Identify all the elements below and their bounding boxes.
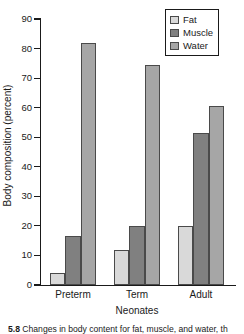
bar-muscle-term	[129, 226, 145, 285]
figure-caption: 5.8 Changes in body content for fat, mus…	[8, 324, 244, 334]
y-axis-tick-label: 10	[4, 250, 32, 260]
bar-muscle-preterm	[65, 236, 81, 285]
y-axis-tick	[34, 137, 40, 138]
y-axis-tick	[34, 225, 40, 226]
y-axis-tick-label: 40	[4, 162, 32, 172]
caption-text: Changes in body content for fat, muscle,…	[20, 324, 228, 334]
legend-swatch-muscle	[170, 29, 179, 37]
bar-fat-term	[114, 250, 130, 285]
bar-water-term	[145, 65, 161, 285]
x-axis-line	[40, 285, 236, 286]
legend-item-water: Water	[170, 39, 213, 52]
legend-label: Fat	[183, 15, 197, 25]
bar-fat-adult	[178, 226, 194, 285]
y-axis-tick-label: 90	[4, 14, 32, 24]
x-axis-label-preterm: Preterm	[41, 289, 105, 300]
bar-muscle-adult	[193, 133, 209, 285]
y-axis-tick	[34, 166, 40, 167]
y-axis-tick-label: 60	[4, 103, 32, 113]
y-axis-tick	[34, 78, 40, 79]
y-axis-tick-labels: 0102030405060708090	[0, 0, 32, 333]
bar-water-preterm	[81, 43, 97, 285]
legend-swatch-fat	[170, 16, 179, 24]
caption-number: 5.8	[8, 324, 20, 334]
y-axis-tick-label: 30	[4, 191, 32, 201]
y-axis-tick	[34, 196, 40, 197]
y-axis-tick	[34, 18, 40, 19]
plot-area	[41, 19, 233, 285]
legend: FatMuscleWater	[165, 9, 219, 56]
y-axis-tick-label: 70	[4, 73, 32, 83]
legend-label: Muscle	[183, 28, 213, 38]
legend-swatch-water	[170, 42, 179, 50]
bar-group	[169, 19, 233, 285]
legend-item-muscle: Muscle	[170, 26, 213, 39]
legend-label: Water	[183, 41, 208, 51]
y-axis-tick	[34, 284, 40, 285]
bar-fat-preterm	[50, 273, 66, 285]
y-axis-tick-label: 20	[4, 221, 32, 231]
y-axis-tick-label: 0	[4, 280, 32, 290]
y-axis-tick	[34, 255, 40, 256]
bar-group	[105, 19, 169, 285]
y-axis-tick-label: 50	[4, 132, 32, 142]
y-axis-tick-label: 80	[4, 44, 32, 54]
x-axis-label-adult: Adult	[169, 289, 233, 300]
x-axis-label-term: Term	[105, 289, 169, 300]
y-axis-tick	[34, 48, 40, 49]
bar-water-adult	[209, 106, 225, 285]
legend-item-fat: Fat	[170, 13, 213, 26]
y-axis-tick	[34, 107, 40, 108]
bar-group	[41, 19, 105, 285]
x-axis-title: Neonates	[41, 305, 233, 316]
